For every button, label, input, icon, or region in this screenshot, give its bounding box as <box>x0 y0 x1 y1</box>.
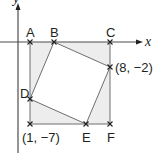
x-axis-arrow-icon <box>136 40 143 45</box>
label-D: D <box>20 86 29 101</box>
x-axis-label: x <box>144 34 152 49</box>
label-F: F <box>107 130 115 145</box>
diagram-canvas: y x A B C D E F (8, −2) (1, −7) <box>0 0 160 157</box>
label-B: B <box>50 25 59 40</box>
label-E: E <box>82 130 91 145</box>
label-C: C <box>106 25 115 40</box>
y-axis-label: y <box>11 0 20 6</box>
label-A: A <box>26 25 35 40</box>
label-point-1-minus7: (1, −7) <box>22 130 60 145</box>
label-point-8-minus2: (8, −2) <box>115 60 153 75</box>
